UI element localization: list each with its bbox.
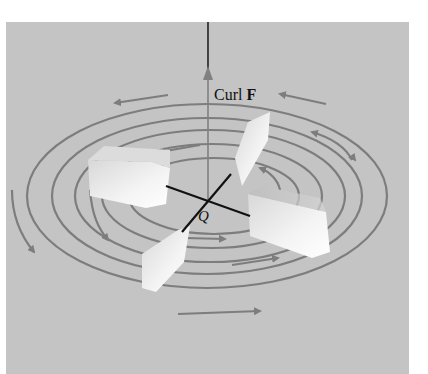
flow-ellipse-outer [27,104,387,288]
vane-bottom [142,226,190,292]
vector-f-text: F [246,86,256,103]
vane-left [88,160,170,208]
arrow-bottom [178,311,260,314]
curl-axis [203,22,213,200]
curl-arrowhead-icon [203,66,213,80]
curl-f-label: Curl F [214,86,256,104]
arrow-inner-bottom [185,238,225,239]
curl-paddle-wheel-diagram [0,0,428,374]
arrow-left-outer [12,190,34,252]
vane-top-right [235,112,270,186]
point-q-label: Q [198,208,209,225]
curl-text: Curl [214,86,246,103]
paddle-wheel [88,112,330,292]
arrow-top-left [115,95,168,103]
arrow-top-right [280,94,326,104]
flow-lines [27,104,387,288]
